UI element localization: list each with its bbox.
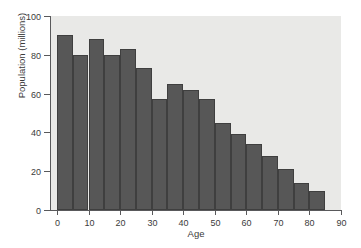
y-tick-label: 60	[31, 90, 41, 100]
bar	[73, 55, 89, 210]
y-tick: 80	[44, 55, 50, 56]
y-tick-label: 40	[31, 128, 41, 138]
x-tick-label: 60	[241, 218, 251, 228]
y-axis-title: Population (millions)	[16, 0, 27, 121]
y-tick-label: 100	[26, 12, 41, 22]
x-tick: 90	[341, 210, 342, 215]
x-tick-label: 0	[55, 218, 60, 228]
x-tick: 0	[57, 210, 58, 215]
bar	[231, 134, 247, 210]
x-tick: 60	[246, 210, 247, 215]
bar	[199, 99, 215, 210]
bar	[278, 169, 294, 210]
x-tick: 70	[278, 210, 279, 215]
bar	[89, 39, 105, 210]
y-tick: 60	[44, 94, 50, 95]
x-axis-title: Age	[50, 228, 342, 239]
y-tick-label: 0	[36, 206, 41, 216]
bar	[167, 84, 183, 210]
x-tick-label: 50	[210, 218, 220, 228]
y-axis-line	[50, 16, 51, 211]
x-tick: 50	[215, 210, 216, 215]
bar	[57, 35, 73, 210]
x-tick-label: 80	[304, 218, 314, 228]
x-tick: 30	[152, 210, 153, 215]
plot-area	[50, 16, 341, 210]
x-tick-label: 30	[147, 218, 157, 228]
bar	[152, 99, 168, 210]
x-tick-label: 70	[273, 218, 283, 228]
bar	[104, 55, 120, 210]
x-tick: 80	[309, 210, 310, 215]
bar-series	[50, 16, 341, 210]
x-axis-line	[50, 210, 342, 211]
x-tick: 20	[120, 210, 121, 215]
y-tick: 40	[44, 132, 50, 133]
bar	[215, 123, 231, 210]
bar	[183, 90, 199, 210]
x-tick: 40	[183, 210, 184, 215]
y-tick: 0	[44, 210, 50, 211]
bar	[262, 156, 278, 210]
y-tick: 100	[44, 16, 50, 17]
x-tick: 10	[89, 210, 90, 215]
bar	[136, 68, 152, 210]
y-tick: 20	[44, 171, 50, 172]
x-tick-label: 40	[178, 218, 188, 228]
y-tick-label: 80	[31, 51, 41, 61]
y-tick-label: 20	[31, 167, 41, 177]
x-tick-label: 20	[115, 218, 125, 228]
bar	[246, 144, 262, 210]
population-age-histogram: 020406080100 0102030405060708090 Populat…	[0, 0, 361, 248]
x-tick-label: 10	[84, 218, 94, 228]
bar	[294, 183, 310, 210]
bar	[120, 49, 136, 210]
bar	[309, 191, 325, 210]
x-tick-label: 90	[336, 218, 346, 228]
